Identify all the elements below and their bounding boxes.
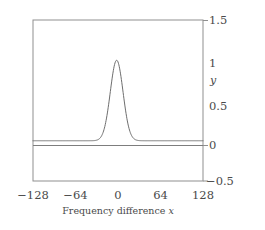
xtick-label-64: 64 <box>153 190 168 202</box>
xtick-label-neg-64: −64 <box>63 190 87 202</box>
chart-figure: 1.5 1 0.5 0 −0.5 y −128 −64 0 64 128 Fre… <box>0 0 265 230</box>
xtick-label-128: 128 <box>192 190 214 202</box>
ytick-label-0-5: 0.5 <box>209 101 227 113</box>
plot-frame <box>33 20 203 181</box>
y-axis-title: y <box>210 75 216 86</box>
xtick-label-0: 0 <box>114 190 121 202</box>
ytick-label-1-5: 1.5 <box>209 15 227 27</box>
x-axis-title-text: Frequency difference <box>62 205 168 216</box>
ytick-label-neg-0-5: −0.5 <box>206 176 234 188</box>
peak-curve <box>33 60 203 141</box>
xtick-label-neg-128: −128 <box>17 190 49 202</box>
x-axis-title-variable: x <box>168 205 173 216</box>
ytick-label-1: 1 <box>209 58 216 70</box>
ytick-label-0: 0 <box>209 140 216 152</box>
x-axis-title: Frequency difference x <box>62 206 174 216</box>
